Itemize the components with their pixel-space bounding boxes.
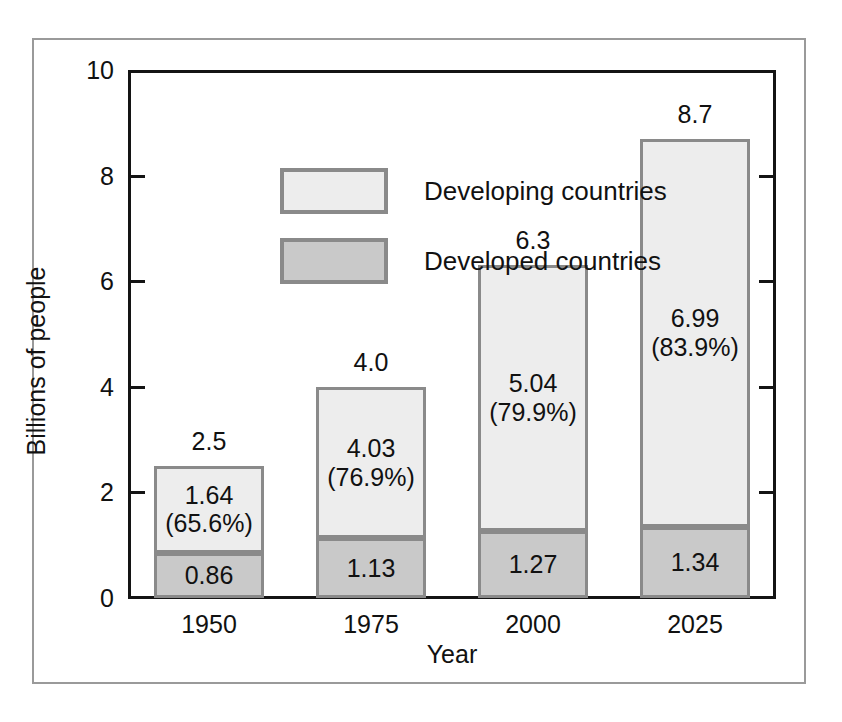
bar-segment-label-developed: 1.27 <box>509 550 558 579</box>
bar-group[interactable]: 1.346.99 (83.9%)8.7 <box>640 70 750 598</box>
bar-segment-label-developing: 5.04 (79.9%) <box>489 369 577 427</box>
bar-segment-label-developing: 1.64 (65.6%) <box>165 481 253 539</box>
y-tick-label: 0 <box>100 586 114 611</box>
y-tick-label: 10 <box>86 58 114 83</box>
x-tick-label-1950: 1950 <box>181 610 237 639</box>
y-axis-tick-left <box>131 175 145 178</box>
chart-legend: Developing countriesDeveloped countries <box>280 166 700 306</box>
plot-area: 0246810 0.861.64 (65.6%)2.51.134.03 (76.… <box>128 70 776 598</box>
legend-item[interactable]: Developed countries <box>280 236 700 286</box>
bar-segment-label-developing: 6.99 (83.9%) <box>651 304 739 362</box>
bar-segment-label-developing: 4.03 (76.9%) <box>327 434 415 492</box>
bar-segment-developed[interactable]: 1.13 <box>316 538 426 598</box>
legend-swatch-developed <box>280 238 388 284</box>
y-axis-tick-right <box>759 491 773 494</box>
legend-label: Developing countries <box>424 176 667 207</box>
y-axis-tick-left <box>131 280 145 283</box>
bar-segment-label-developed: 1.34 <box>671 548 720 577</box>
y-axis-tick-right <box>759 175 773 178</box>
y-axis-left <box>128 70 131 599</box>
bar-segment-developed[interactable]: 1.34 <box>640 527 750 598</box>
y-axis-title: Billions of people <box>22 266 51 455</box>
bar-segment-developing[interactable]: 4.03 (76.9%) <box>316 387 426 539</box>
bar-segment-developed[interactable]: 0.86 <box>154 553 264 598</box>
bar-segment-developing[interactable]: 1.64 (65.6%) <box>154 466 264 553</box>
y-axis-tick-left <box>131 491 145 494</box>
y-tick-label: 8 <box>100 163 114 188</box>
y-tick-label: 2 <box>100 480 114 505</box>
bar-segment-label-developed: 0.86 <box>185 561 234 590</box>
bar-total-label: 2.5 <box>192 427 227 456</box>
x-tick-label-2000: 2000 <box>505 610 561 639</box>
legend-swatch-developing <box>280 168 388 214</box>
y-axis-right <box>773 70 776 599</box>
bar-group[interactable]: 1.275.04 (79.9%)6.3 <box>478 70 588 598</box>
x-tick-label-2025: 2025 <box>667 610 723 639</box>
y-axis-tick-right <box>759 280 773 283</box>
legend-item[interactable]: Developing countries <box>280 166 700 216</box>
x-axis-title: Year <box>128 640 776 669</box>
bar-total-label: 4.0 <box>354 348 389 377</box>
bar-total-label: 8.7 <box>678 100 713 129</box>
bar-group[interactable]: 1.134.03 (76.9%)4.0 <box>316 70 426 598</box>
x-tick-label-1975: 1975 <box>343 610 399 639</box>
figure-canvas: Billions of people Year 0246810 0.861.64… <box>0 0 842 722</box>
y-tick-label: 6 <box>100 269 114 294</box>
bar-segment-label-developed: 1.13 <box>347 554 396 583</box>
y-tick-label: 4 <box>100 374 114 399</box>
legend-label: Developed countries <box>424 246 661 277</box>
y-axis-tick-right <box>759 386 773 389</box>
bar-group[interactable]: 0.861.64 (65.6%)2.5 <box>154 70 264 598</box>
y-axis-tick-left <box>131 386 145 389</box>
bar-segment-developed[interactable]: 1.27 <box>478 531 588 598</box>
